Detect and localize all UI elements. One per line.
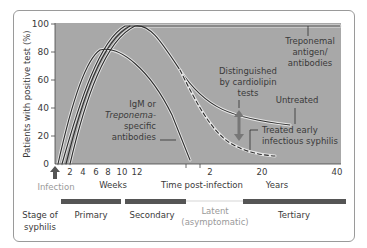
svg-text:Treated early: Treated early bbox=[261, 125, 318, 135]
svg-text:tests: tests bbox=[238, 88, 259, 98]
y-ticks: 100 80 60 40 20 0 bbox=[32, 19, 55, 169]
svg-text:Distinguished: Distinguished bbox=[219, 66, 277, 76]
svg-text:40: 40 bbox=[332, 167, 343, 177]
svg-text:antigen/: antigen/ bbox=[292, 47, 327, 57]
svg-text:Untreated: Untreated bbox=[276, 95, 319, 105]
infection-arrow-icon bbox=[50, 166, 60, 179]
svg-text:Treponema-: Treponema- bbox=[105, 110, 156, 120]
y-tick-20: 20 bbox=[38, 131, 50, 141]
stage-secondary: Secondary bbox=[129, 210, 174, 220]
stage-primary: Primary bbox=[75, 210, 108, 220]
svg-text:(asymptomatic): (asymptomatic) bbox=[181, 217, 248, 227]
time-label: Time post-infection bbox=[160, 180, 243, 190]
svg-text:8: 8 bbox=[105, 167, 110, 177]
stage-latent: Latent bbox=[201, 206, 229, 216]
svg-text:Treponemal: Treponemal bbox=[284, 36, 335, 46]
y-tick-40: 40 bbox=[38, 103, 50, 113]
svg-text:antibodies: antibodies bbox=[288, 58, 333, 68]
y-tick-0: 0 bbox=[43, 159, 49, 169]
svg-text:2: 2 bbox=[207, 167, 212, 177]
svg-text:specific: specific bbox=[124, 121, 156, 131]
svg-text:2: 2 bbox=[67, 167, 72, 177]
svg-text:20: 20 bbox=[257, 167, 268, 177]
y-tick-60: 60 bbox=[38, 75, 50, 85]
years-label: Years bbox=[265, 180, 289, 190]
infection-label: Infection bbox=[37, 182, 74, 192]
syphilis-serology-chart: 100 80 60 40 20 0 Patients with positive… bbox=[0, 0, 367, 248]
x-ticks: 2 4 6 8 10 12 2 20 40 Weeks Time post-in… bbox=[67, 167, 342, 190]
svg-text:Stage of: Stage of bbox=[22, 210, 58, 220]
svg-text:4: 4 bbox=[80, 167, 85, 177]
svg-text:IgM or: IgM or bbox=[129, 99, 156, 109]
svg-text:by cardiolipin: by cardiolipin bbox=[219, 77, 276, 87]
y-tick-80: 80 bbox=[38, 47, 50, 57]
y-tick-100: 100 bbox=[32, 19, 49, 29]
svg-text:10: 10 bbox=[117, 167, 128, 177]
svg-text:6: 6 bbox=[93, 167, 98, 177]
svg-text:syphilis: syphilis bbox=[24, 222, 56, 232]
y-axis-label: Patients with positive test (%) bbox=[22, 30, 32, 157]
stage-tertiary: Tertiary bbox=[277, 210, 310, 220]
stage-bars bbox=[61, 199, 346, 204]
weeks-label: Weeks bbox=[99, 180, 127, 190]
svg-text:infectious syphilis: infectious syphilis bbox=[262, 136, 338, 146]
svg-text:12: 12 bbox=[132, 167, 143, 177]
svg-text:antibodies: antibodies bbox=[112, 132, 157, 142]
stage-labels: Stage of syphilis Primary Secondary Late… bbox=[22, 206, 310, 232]
